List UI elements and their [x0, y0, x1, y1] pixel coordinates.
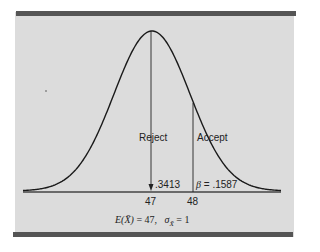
sigma-value: = 1	[174, 214, 190, 225]
normal-density-curve	[23, 31, 281, 191]
tick-label-48: 48	[187, 197, 198, 207]
expected-value-eq: = 47,	[134, 214, 157, 225]
distribution-formula: E(X̄) = 47, σX̄ = 1	[115, 214, 189, 228]
arrow-down-icon	[149, 184, 154, 191]
beta-value: = .1587	[201, 179, 237, 190]
tick-label-47: 47	[145, 197, 156, 207]
left-area-value: .3413	[155, 180, 180, 190]
reject-label: Reject	[139, 133, 167, 143]
print-speck	[45, 90, 47, 92]
right-area-value: β = .1587	[196, 180, 237, 190]
accept-label: Accept	[197, 133, 228, 143]
expected-value-term: E(X̄)	[115, 214, 134, 225]
